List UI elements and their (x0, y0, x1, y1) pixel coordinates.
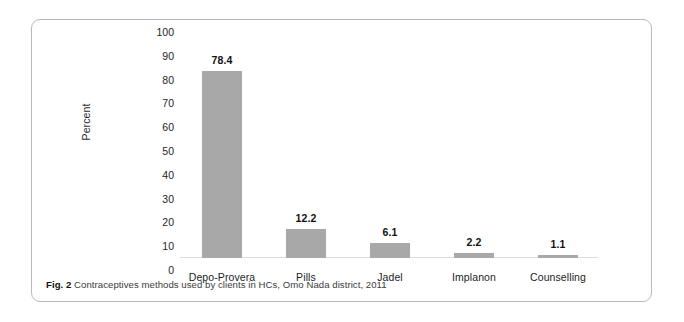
bar-group: 6.1Jadel (348, 20, 432, 258)
bar (454, 253, 494, 258)
figure-container: Percent 1009080706050403020100 78.4Depo-… (31, 19, 652, 302)
y-axis-tick-label: 100 (132, 27, 174, 38)
bar-group: 12.2Pills (264, 20, 348, 258)
y-axis-tick-label: 10 (132, 241, 174, 252)
bar (286, 229, 326, 258)
plot-area: 78.4Depo-Provera12.2Pills6.1Jadel2.2Impl… (180, 20, 600, 270)
bar-value-label: 1.1 (551, 238, 566, 250)
y-axis-tick-label: 0 (132, 265, 174, 276)
bar (538, 255, 578, 258)
figure-caption-prefix: Fig. 2 (46, 279, 71, 290)
y-axis-tick-label: 60 (132, 122, 174, 133)
bar-chart: Percent 1009080706050403020100 78.4Depo-… (32, 20, 653, 270)
figure-caption: Fig. 2 Contraceptives methods used by cl… (46, 278, 639, 291)
y-axis-tick-label: 30 (132, 193, 174, 204)
y-axis-tick-label: 90 (132, 50, 174, 61)
y-axis-tick-label: 50 (132, 146, 174, 157)
bar (202, 71, 242, 258)
y-axis-tick-label: 80 (132, 74, 174, 85)
bar-group: 2.2Implanon (432, 20, 516, 258)
y-axis-title: Percent (80, 62, 92, 182)
bar-value-label: 2.2 (467, 236, 482, 248)
y-axis-tick-label: 20 (132, 217, 174, 228)
y-axis-tick-label: 70 (132, 98, 174, 109)
y-axis-ticks: 1009080706050403020100 (132, 20, 174, 270)
bar-value-label: 12.2 (296, 212, 317, 224)
y-axis-tick-label: 40 (132, 169, 174, 180)
figure-caption-text: Contraceptives methods used by clients i… (74, 279, 387, 290)
bar-group: 78.4Depo-Provera (180, 20, 264, 258)
bar-value-label: 78.4 (212, 54, 233, 66)
bar (370, 243, 410, 258)
bar-value-label: 6.1 (383, 226, 398, 238)
bar-group: 1.1Counselling (516, 20, 600, 258)
